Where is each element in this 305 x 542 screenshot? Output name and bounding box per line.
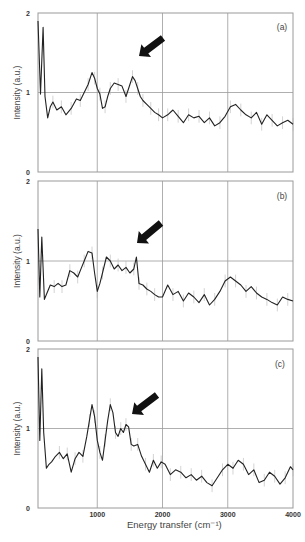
y-axis-title: Intensity (a.u.)	[12, 401, 22, 455]
x-axis-title: Energy transfer (cm⁻¹)	[127, 519, 222, 530]
y-tick-label: 2	[26, 10, 30, 17]
spectrum-line	[38, 229, 293, 305]
panel-c: 012Intensity (a.u.)(c)	[12, 346, 293, 512]
y-axis-title: Intensity (a.u.)	[12, 234, 22, 288]
panel-label: (b)	[277, 191, 288, 201]
panel-label: (c)	[275, 359, 285, 369]
y-tick-label: 1	[26, 89, 30, 96]
panel-a: 012Intensity (a.u.)(a)	[12, 10, 293, 176]
y-tick-label: 0	[26, 169, 30, 176]
y-tick-label: 0	[26, 338, 30, 345]
panel-label: (a)	[277, 22, 288, 32]
arrow-icon	[132, 217, 166, 249]
y-tick-label: 1	[26, 258, 30, 265]
x-tick-label: 4000	[285, 511, 301, 518]
x-tick-label: 1000	[89, 511, 105, 518]
x-tick-label: 2000	[155, 511, 171, 518]
y-tick-label: 1	[26, 425, 30, 432]
spectra-figure: 012Intensity (a.u.)(a)012Intensity (a.u.…	[0, 0, 305, 542]
y-tick-label: 2	[26, 346, 30, 353]
y-tick-label: 2	[26, 178, 30, 185]
arrow-icon	[127, 389, 162, 421]
y-tick-label: 0	[26, 505, 30, 512]
panel-b: 012Intensity (a.u.)(b)	[12, 178, 293, 345]
spectrum-line	[38, 357, 293, 486]
y-axis-title: Intensity (a.u.)	[12, 65, 22, 119]
spectrum-line	[38, 21, 293, 126]
x-tick-label: 3000	[220, 511, 236, 518]
